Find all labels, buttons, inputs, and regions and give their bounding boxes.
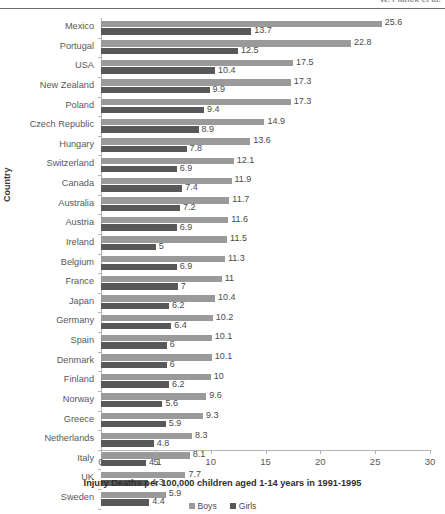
bar-girls bbox=[101, 381, 169, 387]
x-axis-tick-label: 30 bbox=[425, 456, 436, 467]
data-label-girls: 6 bbox=[170, 339, 175, 349]
bar-girls bbox=[101, 303, 169, 309]
bar-group: Japan10.46.2 bbox=[101, 293, 430, 313]
bar-group: Czech Republic14.98.9 bbox=[101, 116, 430, 136]
x-axis-tick-label: 10 bbox=[205, 456, 216, 467]
data-label-boys: 10.4 bbox=[218, 292, 236, 302]
category-label: Canada bbox=[62, 178, 94, 188]
data-label-girls: 8.9 bbox=[202, 124, 215, 134]
x-axis-tick-label: 15 bbox=[260, 456, 271, 467]
x-axis-tick bbox=[320, 450, 321, 454]
bar-boys bbox=[101, 433, 192, 439]
bar-group: Canada11.97.4 bbox=[101, 175, 430, 195]
data-label-boys: 11 bbox=[225, 273, 234, 283]
data-label-boys: 11.6 bbox=[231, 214, 248, 224]
x-axis-tick bbox=[430, 450, 431, 454]
bar-group: Mexico25.613.7 bbox=[101, 18, 430, 38]
bar-group: New Zealand17.39.9 bbox=[101, 77, 430, 97]
category-label: Switzerland bbox=[47, 158, 95, 168]
legend-label: Girls bbox=[239, 501, 257, 511]
data-label-girls: 9.4 bbox=[207, 104, 220, 114]
bar-girls bbox=[101, 87, 210, 93]
data-label-boys: 13.6 bbox=[253, 135, 271, 145]
data-label-boys: 11.7 bbox=[232, 194, 249, 204]
bar-boys bbox=[101, 21, 382, 27]
bar-group: Poland17.39.4 bbox=[101, 97, 430, 117]
data-label-girls: 4.8 bbox=[157, 438, 170, 448]
x-axis-tick bbox=[211, 450, 212, 454]
bar-group: USA17.510.4 bbox=[101, 57, 430, 77]
x-axis-title: Injury Deaths per 100,000 children aged … bbox=[0, 478, 445, 488]
bar-group: Greece9.35.9 bbox=[101, 411, 430, 431]
bar-group: Hungary13.67.8 bbox=[101, 136, 430, 156]
bar-chart-figure: Country Mexico25.613.7Portugal22.812.5US… bbox=[0, 12, 445, 514]
bar-boys bbox=[101, 40, 351, 46]
legend-item-girls: Girls bbox=[230, 501, 257, 511]
data-label-boys: 17.3 bbox=[294, 96, 312, 106]
bar-girls bbox=[101, 48, 238, 54]
category-label: Finland bbox=[64, 374, 94, 384]
running-head: W. Planck et al. bbox=[380, 0, 441, 4]
data-label-boys: 11.5 bbox=[230, 233, 247, 243]
bar-group: Germany10.26.4 bbox=[101, 312, 430, 332]
category-label: Australia bbox=[58, 198, 94, 208]
bar-girls bbox=[101, 362, 167, 368]
bar-boys bbox=[101, 119, 264, 125]
x-axis-tick bbox=[375, 450, 376, 454]
category-label: Netherlands bbox=[44, 433, 94, 443]
bar-group: Ireland11.55 bbox=[101, 234, 430, 254]
bar-boys bbox=[101, 79, 291, 85]
bar-boys bbox=[101, 413, 203, 419]
bar-boys bbox=[101, 197, 229, 203]
data-label-boys: 14.9 bbox=[267, 116, 285, 126]
category-label: Poland bbox=[65, 100, 94, 110]
data-label-girls: 6 bbox=[170, 359, 175, 369]
data-label-girls: 7.4 bbox=[185, 182, 198, 192]
bar-group: Switzerland12.16.9 bbox=[101, 155, 430, 175]
category-label: Austria bbox=[65, 217, 94, 227]
bar-girls bbox=[101, 283, 178, 289]
bar-girls bbox=[101, 205, 180, 211]
category-label: Germany bbox=[56, 315, 94, 325]
data-label-boys: 17.5 bbox=[296, 57, 314, 67]
bar-boys bbox=[101, 236, 227, 242]
category-label: Japan bbox=[69, 296, 94, 306]
category-label: Norway bbox=[63, 394, 94, 404]
bar-girls bbox=[101, 28, 251, 34]
page-header: W. Planck et al. bbox=[0, 0, 445, 12]
bar-boys bbox=[101, 60, 293, 66]
data-label-girls: 5.9 bbox=[169, 418, 182, 428]
bar-girls bbox=[101, 185, 182, 191]
data-label-boys: 9.3 bbox=[206, 410, 219, 420]
bar-group: Spain10.16 bbox=[101, 332, 430, 352]
bar-group: Norway9.65.6 bbox=[101, 391, 430, 411]
bar-group: Finland106.2 bbox=[101, 371, 430, 391]
bar-group: Austria11.66.9 bbox=[101, 214, 430, 234]
data-label-boys: 11.3 bbox=[228, 253, 245, 263]
plot-area: Mexico25.613.7Portugal22.812.5USA17.510.… bbox=[101, 18, 430, 450]
data-label-girls: 7.8 bbox=[190, 143, 203, 153]
data-label-girls: 13.7 bbox=[254, 25, 272, 35]
data-label-boys: 10 bbox=[214, 371, 224, 381]
bar-boys bbox=[101, 276, 222, 282]
bar-girls bbox=[101, 146, 187, 152]
data-label-boys: 17.3 bbox=[294, 76, 312, 86]
bar-group: Portugal22.812.5 bbox=[101, 38, 430, 58]
data-label-boys: 25.6 bbox=[385, 17, 403, 27]
bar-girls bbox=[101, 421, 166, 427]
data-label-boys: 10.1 bbox=[215, 331, 233, 341]
x-axis-ticks bbox=[101, 450, 430, 455]
data-label-girls: 10.4 bbox=[218, 65, 236, 75]
bar-group: France117 bbox=[101, 273, 430, 293]
bar-group: Belgium11.36.9 bbox=[101, 254, 430, 274]
bar-boys bbox=[101, 138, 250, 144]
category-label: Greece bbox=[64, 414, 94, 424]
data-label-boys: 11.9 bbox=[235, 174, 252, 184]
data-label-girls: 12.5 bbox=[241, 45, 259, 55]
category-label: Czech Republic bbox=[30, 119, 94, 129]
bar-girls bbox=[101, 401, 162, 407]
category-label: Spain bbox=[71, 335, 95, 345]
bar-girls bbox=[101, 107, 204, 113]
data-label-boys: 12.1 bbox=[237, 155, 255, 165]
bar-boys bbox=[101, 158, 234, 164]
